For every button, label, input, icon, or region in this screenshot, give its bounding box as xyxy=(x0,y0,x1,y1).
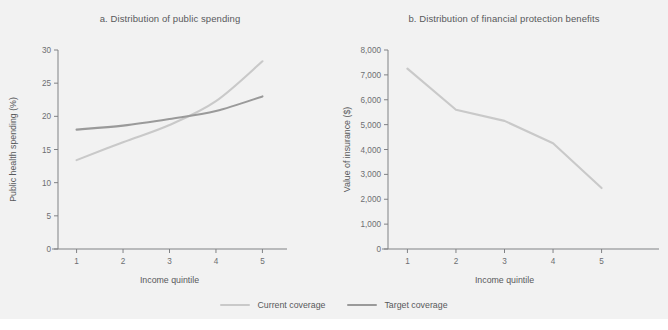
y-axis-tick-label: 3,000 xyxy=(361,170,382,179)
y-axis-tick-label: 5 xyxy=(46,212,51,221)
chart-b-plot: 01,0002,0003,0004,0005,0006,0007,0008,00… xyxy=(340,0,668,292)
data-series-line-1 xyxy=(77,61,263,160)
legend-item-current-coverage: Current coverage xyxy=(220,300,325,310)
chart-panel-b: b. Distribution of financial protection … xyxy=(340,0,668,292)
chart-panel-a: a. Distribution of public spending 05101… xyxy=(0,0,340,292)
x-axis-tick-label: 1 xyxy=(74,257,79,266)
x-axis-tick-label: 2 xyxy=(454,257,459,266)
y-axis-tick-label: 15 xyxy=(42,146,52,155)
legend-label-current-coverage: Current coverage xyxy=(257,300,325,310)
y-axis-tick-label: 25 xyxy=(42,79,52,88)
y-axis-tick-label: 30 xyxy=(42,46,52,55)
figure-bottom-rule xyxy=(0,319,668,330)
data-series-line-1 xyxy=(407,69,601,188)
x-axis-tick-label: 3 xyxy=(167,257,172,266)
y-axis-tick-label: 10 xyxy=(42,179,52,188)
y-axis-tick-label: 1,000 xyxy=(361,220,382,229)
chart-legend: Current coverage Target coverage xyxy=(0,292,668,318)
x-axis-tick-label: 5 xyxy=(260,257,265,266)
y-axis-tick-label: 8,000 xyxy=(361,46,382,55)
y-axis-title: Value of insurance ($) xyxy=(342,107,352,192)
x-axis-tick-label: 4 xyxy=(214,257,219,266)
y-axis-title: Public health spending (%) xyxy=(8,97,18,202)
y-axis-tick-label: 0 xyxy=(46,245,51,254)
legend-swatch-current-coverage xyxy=(220,304,250,306)
x-axis-tick-label: 4 xyxy=(551,257,556,266)
y-axis-tick-label: 0 xyxy=(376,245,381,254)
y-axis-tick-label: 20 xyxy=(42,112,52,121)
y-axis-tick-label: 4,000 xyxy=(361,146,382,155)
x-axis-tick-label: 2 xyxy=(121,257,126,266)
y-axis-tick-label: 5,000 xyxy=(361,121,382,130)
x-axis-tick-label: 1 xyxy=(405,257,410,266)
legend-label-target-coverage: Target coverage xyxy=(384,300,447,310)
x-axis-title: Income quintile xyxy=(140,275,199,285)
y-axis-tick-label: 7,000 xyxy=(361,71,382,80)
x-axis-tick-label: 5 xyxy=(599,257,604,266)
figure-container: a. Distribution of public spending 05101… xyxy=(0,0,668,330)
x-axis-title: Income quintile xyxy=(475,275,534,285)
y-axis-tick-label: 2,000 xyxy=(361,195,382,204)
legend-swatch-target-coverage xyxy=(347,304,377,306)
y-axis-tick-label: 6,000 xyxy=(361,96,382,105)
chart-a-plot: 05101520253012345Income quintilePublic h… xyxy=(0,0,340,292)
legend-item-target-coverage: Target coverage xyxy=(347,300,447,310)
x-axis-tick-label: 3 xyxy=(502,257,507,266)
